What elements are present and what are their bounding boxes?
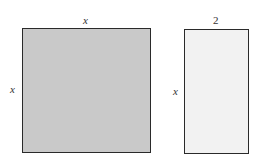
square-x-by-x xyxy=(22,28,151,153)
square-width-label: x xyxy=(83,15,88,26)
rectangle-height-label: x xyxy=(173,86,178,97)
rectangle-width-label: 2 xyxy=(213,15,219,26)
square-height-label: x xyxy=(10,84,15,95)
rectangle-2-by-x xyxy=(184,29,249,154)
